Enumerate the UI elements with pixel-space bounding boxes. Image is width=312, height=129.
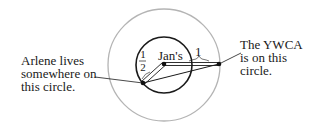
segment-arlene-ywca	[143, 64, 219, 83]
half-denominator: 2	[138, 61, 148, 73]
distance-one-label: 1	[195, 45, 202, 58]
arlene-point	[141, 81, 146, 86]
leader-ywca	[219, 53, 241, 64]
ywca-point	[217, 62, 222, 67]
ywca-line-3: circle.	[240, 64, 272, 77]
half-numerator: 1	[138, 48, 148, 60]
leader-arlene	[95, 77, 143, 83]
jans-label: Jan's	[158, 49, 183, 62]
arlene-line-3: this circle.	[21, 80, 75, 93]
